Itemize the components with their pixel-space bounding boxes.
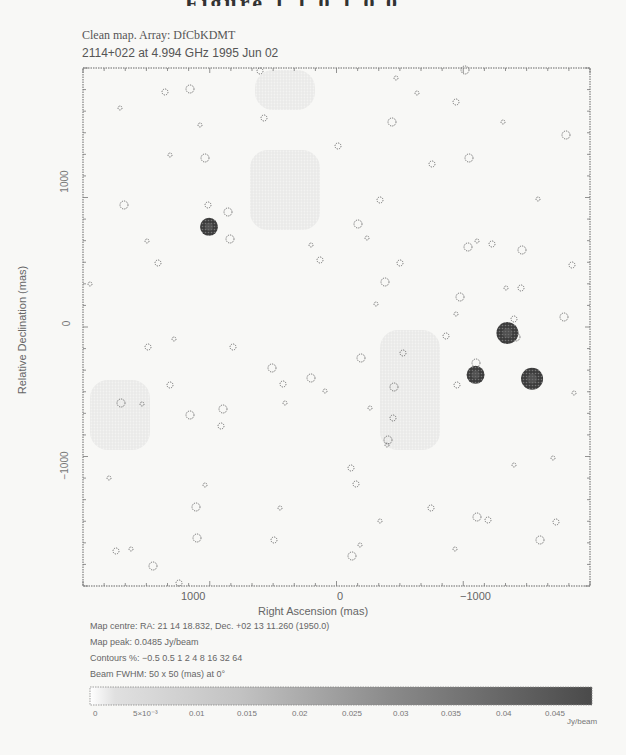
y-tick-1000: 1000: [59, 170, 70, 192]
x-axis-label: Right Ascension (mas): [258, 605, 368, 617]
colorbar-tick: 0: [93, 709, 97, 718]
colorbar-tick: 0.03: [393, 709, 409, 718]
y-tick-minus-1000: −1000: [59, 451, 70, 479]
bright-sources: [200, 218, 543, 390]
colorbar-tick: 0.015: [237, 709, 257, 718]
beam-text: Beam FWHM: 50 x 50 (mas) at 0°: [90, 669, 225, 679]
contours-text: Contours %: −0.5 0.5 1 2 4 8 16 32 64: [90, 653, 242, 663]
y-tick-0: 0: [61, 321, 72, 327]
x-tick-minus-1000: −1000: [460, 590, 491, 602]
colorbar-tick: 0.02: [292, 709, 308, 718]
colorbar-tick: 0.035: [441, 709, 461, 718]
colorbar-unit: Jy/beam: [567, 717, 597, 726]
colorbar-tick: 0.01: [189, 709, 205, 718]
map-centre-text: Map centre: RA: 21 14 18.832, Dec. +02 1…: [90, 621, 329, 631]
colorbar: [90, 687, 592, 705]
y-axis-label: Relative Declination (mas): [16, 266, 28, 394]
colorbar-tick: 0.04: [496, 709, 512, 718]
map-peak-text: Map peak: 0.0485 Jy/beam: [90, 637, 199, 647]
colorbar-tick: 0.025: [342, 709, 362, 718]
colorbar-tick: 0.045: [545, 709, 565, 718]
colorbar-tick: 5×10⁻³: [133, 709, 158, 718]
diffuse-emission-regions: [90, 70, 440, 450]
x-tick-1000: 1000: [181, 590, 205, 602]
x-tick-0: 0: [337, 590, 343, 602]
